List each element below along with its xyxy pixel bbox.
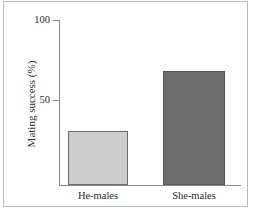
figure: 100 50 Mating success (%) He-males She-m… [0, 0, 258, 215]
x-category-label-she-males: She-males [155, 191, 233, 202]
y-axis-line [59, 20, 60, 186]
y-tick-label-100: 100 [24, 15, 50, 26]
bar-she-males [163, 71, 225, 185]
x-category-label-he-males: He-males [61, 191, 135, 202]
bar-chart-plot-area: 100 50 Mating success (%) He-males She-m… [0, 0, 258, 215]
y-axis-title: Mating success (%) [25, 29, 37, 179]
y-tick-mark-100 [53, 20, 60, 21]
bar-he-males [68, 131, 128, 185]
x-axis-line [59, 185, 241, 186]
y-tick-mark-50 [53, 100, 60, 101]
